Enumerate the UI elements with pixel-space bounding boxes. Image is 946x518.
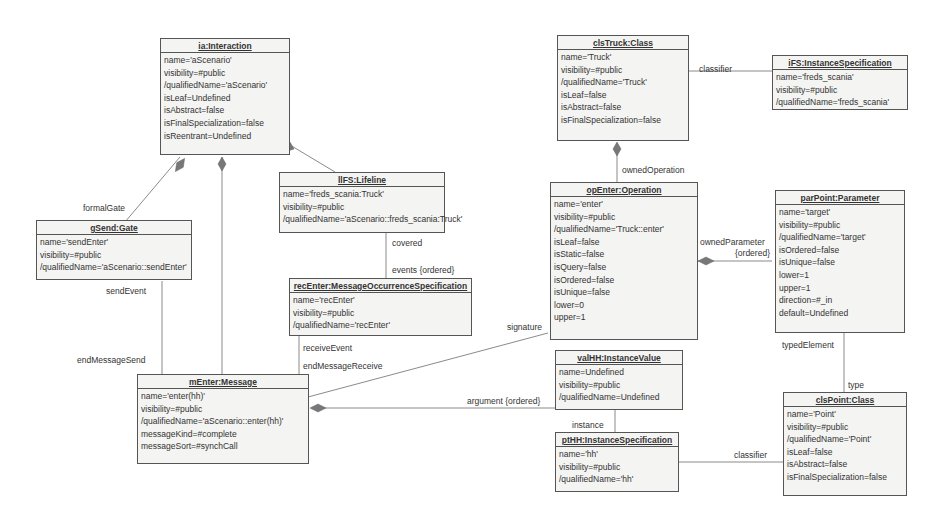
attr: messageSort=#synchCall [141, 440, 305, 453]
label-receive-event: receiveEvent [303, 343, 352, 353]
label-signature: signature [507, 322, 542, 332]
label-formal-gate: formalGate [83, 203, 125, 213]
attr: visibility=#public [561, 64, 685, 77]
attr: /qualifiedName='target' [779, 231, 901, 244]
attr: name='freds_scania' [776, 71, 904, 84]
label-owned-parameter: ownedParameter [700, 237, 765, 247]
attr: name='enter(hh)' [141, 390, 305, 403]
attr: visibility=#public [559, 461, 675, 474]
attr: isUnique=false [779, 256, 901, 269]
attr: isQuery=false [554, 261, 694, 274]
box-title: ia:Interaction [161, 39, 289, 53]
label-send-event: sendEvent [106, 286, 146, 296]
box-title: parPoint:Parameter [776, 191, 904, 205]
attr: isUnique=false [554, 286, 694, 299]
attr: isAbstract=false [561, 101, 685, 114]
attr: isFinalSpecialization=false [561, 114, 685, 127]
attr: /qualifiedName='hh' [559, 473, 675, 486]
attr: /qualifiedName='aScenario' [164, 79, 286, 92]
lifeline-box[interactable]: llFS:Lifeline name='freds_scania:Truck' … [279, 172, 445, 233]
pt-hh-box[interactable]: ptHH:InstanceSpecification name='hh' vis… [555, 432, 679, 492]
attr: isReentrant=Undefined [164, 130, 286, 143]
attr: visibility=#public [559, 379, 679, 392]
attr: isOrdered=false [779, 244, 901, 257]
attr: name='aScenario' [164, 54, 286, 67]
label-instance: instance [572, 420, 604, 430]
attr: isAbstract=false [164, 104, 286, 117]
attr: isFinalSpecialization=false [787, 471, 903, 484]
attr: visibility=#public [776, 84, 904, 97]
attr: name='sendEnter' [40, 236, 188, 249]
attr: upper=1 [554, 311, 694, 324]
attr: default=Undefined [779, 307, 901, 320]
attr: /qualifiedName=Undefined [559, 391, 679, 404]
attr: isLeaf=false [561, 89, 685, 102]
attr: /qualifiedName='Point' [787, 433, 903, 446]
label-type: type [848, 380, 864, 390]
label-end-message-send: endMessageSend [77, 355, 146, 365]
attr: visibility=#public [787, 421, 903, 434]
attr: /qualifiedName='Truck::enter' [554, 223, 694, 236]
attr: /qualifiedName='aScenario::enter(hh)' [141, 415, 305, 428]
gate-box[interactable]: gSend:Gate name='sendEnter' visibility=#… [36, 220, 192, 280]
attr: isFinalSpecialization=false [164, 117, 286, 130]
attr: name=Undefined [559, 366, 679, 379]
attr: messageKind=#complete [141, 428, 305, 441]
attr: isLeaf=false [554, 236, 694, 249]
attr: /qualifiedName='aScenario::sendEnter' [40, 261, 188, 274]
label-end-message-receive: endMessageReceive [303, 361, 382, 371]
rec-enter-box[interactable]: recEnter:MessageOccurrenceSpecification … [289, 278, 472, 336]
attr: isOrdered=false [554, 274, 694, 287]
label-covered: covered [392, 238, 422, 248]
label-typed-element: typedElement [782, 340, 834, 350]
attr: name='enter' [554, 198, 694, 211]
attr: visibility=#public [40, 249, 188, 262]
box-title: ptHH:InstanceSpecification [556, 433, 678, 447]
attr: visibility=#public [779, 219, 901, 232]
box-title: clsTruck:Class [558, 36, 688, 50]
attr: lower=1 [779, 269, 901, 282]
box-title: llFS:Lifeline [280, 173, 444, 187]
attr: visibility=#public [283, 201, 441, 214]
attr: visibility=#public [141, 403, 305, 416]
attr: /qualifiedName='aScenario::freds_scania:… [283, 213, 441, 226]
label-argument: argument {ordered} [467, 396, 540, 406]
box-title: mEnter:Message [138, 375, 308, 389]
val-hh-box[interactable]: valHH:InstanceValue name=Undefined visib… [555, 350, 683, 410]
attr: isLeaf=Undefined [164, 92, 286, 105]
label-classifier-pt: classifier [734, 450, 767, 460]
attr: visibility=#public [164, 67, 286, 80]
attr: visibility=#public [554, 211, 694, 224]
attr: /qualifiedName='Truck' [561, 76, 685, 89]
box-title: clsPoint:Class [784, 393, 906, 407]
box-title: gSend:Gate [37, 221, 191, 235]
label-events: events {ordered} [392, 265, 454, 275]
attr: /qualifiedName='recEnter' [293, 319, 468, 332]
attr: /qualifiedName='freds_scania' [776, 96, 904, 109]
label-owned-parameter-ordered: {ordered} [735, 248, 770, 258]
ifs-box[interactable]: iFS:InstanceSpecification name='freds_sc… [772, 55, 908, 110]
cls-truck-box[interactable]: clsTruck:Class name='Truck' visibility=#… [557, 35, 689, 141]
cls-point-box[interactable]: clsPoint:Class name='Point' visibility=#… [783, 392, 907, 496]
label-owned-operation: ownedOperation [622, 165, 684, 175]
attr: name='target' [779, 206, 901, 219]
box-title: iFS:InstanceSpecification [773, 56, 907, 70]
attr: lower=0 [554, 299, 694, 312]
attr: upper=1 [779, 282, 901, 295]
attr: name='Truck' [561, 51, 685, 64]
label-classifier-truck: classifier [699, 64, 732, 74]
attr: name='hh' [559, 448, 675, 461]
attr: name='Point' [787, 408, 903, 421]
box-title: recEnter:MessageOccurrenceSpecification [290, 279, 471, 293]
interaction-box[interactable]: ia:Interaction name='aScenario' visibili… [160, 38, 290, 155]
attr: isStatic=false [554, 248, 694, 261]
attr: name='recEnter' [293, 294, 468, 307]
attr: isLeaf=false [787, 446, 903, 459]
attr: name='freds_scania:Truck' [283, 188, 441, 201]
operation-box[interactable]: opEnter:Operation name='enter' visibilit… [550, 182, 698, 340]
message-box[interactable]: mEnter:Message name='enter(hh)' visibili… [137, 374, 309, 464]
box-title: opEnter:Operation [551, 183, 697, 197]
attr: isAbstract=false [787, 458, 903, 471]
box-title: valHH:InstanceValue [556, 351, 682, 365]
parameter-box[interactable]: parPoint:Parameter name='target' visibil… [775, 190, 905, 333]
